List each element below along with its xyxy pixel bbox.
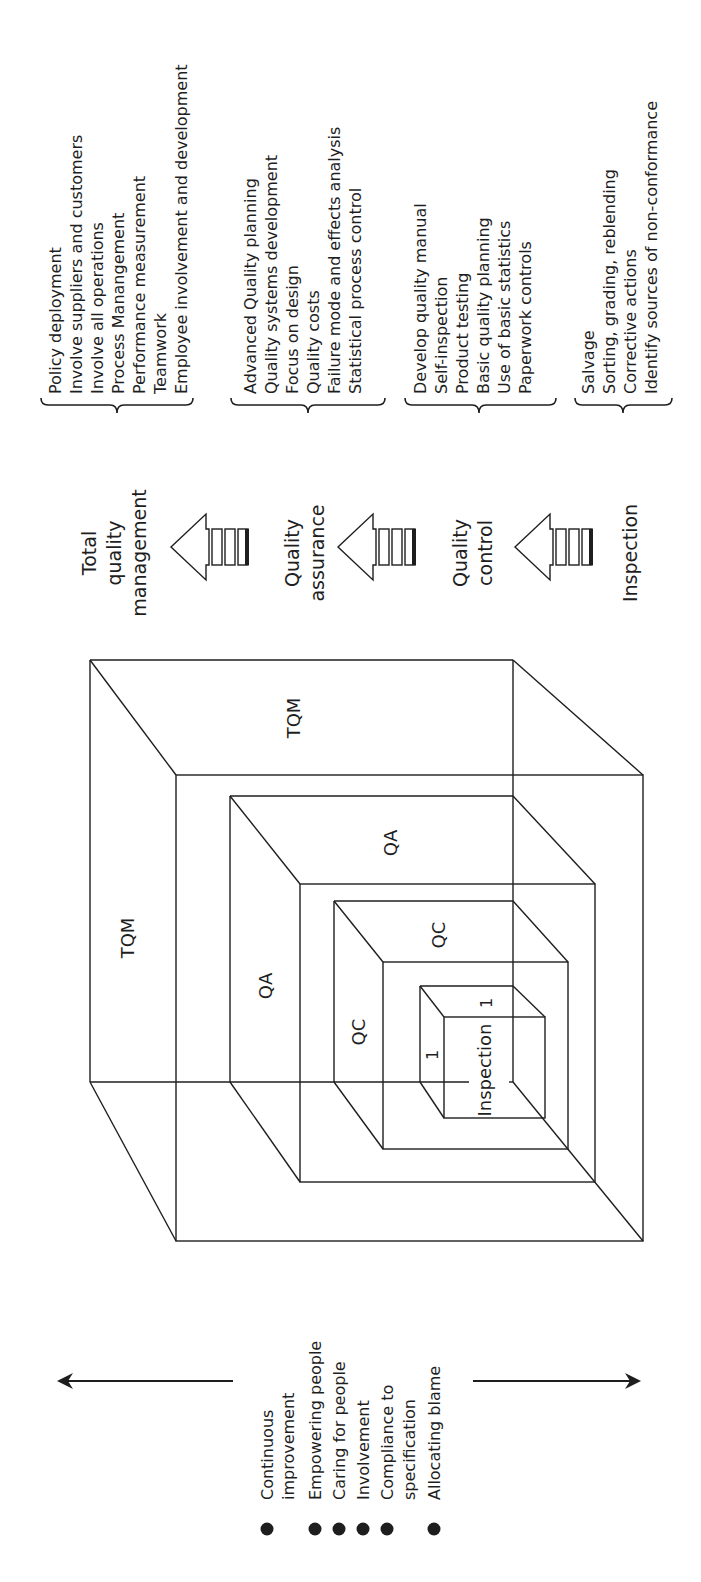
cube-qa (230, 796, 595, 1182)
activity-list-inspection: Salvage Sorting, grading, reblending Cor… (579, 101, 661, 394)
activity-item: Involve suppliers and customers (67, 135, 86, 394)
spectrum-item-cont: improvement (279, 1393, 298, 1500)
spectrum-item: Compliance to (378, 1385, 397, 1500)
activity-list-tqm: Policy deployment Involve suppliers and … (46, 64, 191, 395)
stage-label-line: management (128, 489, 150, 616)
progress-arrow-icon (515, 514, 593, 580)
dimension-label-side: 1 (423, 1050, 442, 1060)
activity-item: Employee involvement and development (172, 64, 191, 394)
activity-item: Self-inspection (432, 277, 451, 394)
bullet-dot-icon (381, 1523, 394, 1536)
spectrum-item-cont: specification (400, 1399, 419, 1500)
stage-label-line: Quality (281, 519, 303, 587)
cube-label-qc-top: QC (428, 922, 449, 949)
cube-tqm (90, 660, 643, 1241)
activity-item: Salvage (579, 330, 598, 394)
stage-label-line: Quality (449, 519, 471, 587)
bullet-dot-icon (333, 1523, 346, 1536)
activity-item: Sorting, grading, reblending (600, 169, 619, 394)
spectrum-item: Continuous (258, 1410, 277, 1500)
bullet-dot-icon (428, 1523, 441, 1536)
activity-item: Policy deployment (46, 247, 65, 394)
stage-label-line: quality (103, 521, 125, 586)
dimension-label-top: 1 (477, 998, 496, 1008)
curly-brace-icon (231, 398, 385, 413)
activity-item: Develop quality manual (411, 203, 430, 394)
activity-list-qa: Advanced Quality planning Quality system… (241, 127, 365, 394)
activity-item: Advanced Quality planning (241, 178, 260, 394)
stage-label-line: Inspection (619, 504, 641, 602)
activity-item: Performance measurement (130, 176, 149, 394)
activity-item: Product testing (453, 273, 472, 394)
stage-label-qc: Quality control (449, 519, 496, 587)
activity-list-qc: Develop quality manual Self-inspection P… (411, 203, 535, 394)
stage-label-line: Total (78, 531, 100, 576)
activity-item: Focus on design (283, 265, 302, 394)
activity-item: Use of basic statistics (495, 221, 514, 394)
progress-arrow-icon (338, 514, 416, 580)
cube-label-inspection: Inspection (474, 1024, 495, 1117)
bullet-dot-icon (357, 1523, 370, 1536)
activity-item: Basic quality planning (474, 217, 493, 394)
spectrum-item: Empowering people (306, 1341, 325, 1500)
progress-arrow-icon (171, 514, 249, 580)
curly-brace-icon (575, 398, 672, 413)
stage-label-qa: Quality assurance (281, 504, 328, 601)
curly-brace-icon (41, 398, 193, 413)
stage-label-tqm: Total quality management (78, 489, 150, 616)
activity-item: Corrective actions (621, 249, 640, 394)
cube-label-tqm-top: TQM (283, 698, 304, 740)
stage-label-line: control (474, 520, 496, 586)
arrow-left-icon (57, 1373, 233, 1389)
stage-label-line: assurance (306, 504, 328, 601)
cube-qc (334, 901, 568, 1149)
activity-item: Statistical process control (346, 188, 365, 394)
cube-label-qc-side: QC (348, 1019, 369, 1046)
cube-label-tqm-side: TQM (117, 918, 138, 960)
curly-brace-icon (405, 398, 556, 413)
activity-item: Identify sources of non-conformance (642, 101, 661, 394)
spectrum-item: Caring for people (330, 1361, 349, 1500)
activity-item: Quality systems development (262, 155, 281, 394)
activity-item: Failure mode and effects analysis (325, 127, 344, 394)
activity-item: Involve all operations (88, 222, 107, 394)
stage-label-inspection: Inspection (619, 504, 641, 602)
culture-spectrum-list: Continuous improvement Empowering people… (258, 1341, 444, 1536)
bullet-dot-icon (309, 1523, 322, 1536)
bullet-dot-icon (261, 1523, 274, 1536)
activity-item: Paperwork controls (516, 241, 535, 394)
spectrum-item: Allocating blame (425, 1366, 444, 1500)
activity-item: Quality costs (304, 290, 323, 394)
activity-item: Process Manangement (109, 213, 128, 394)
activity-item: Teamwork (151, 312, 170, 395)
spectrum-item: Involvement (354, 1400, 373, 1500)
cube-label-qa-side: QA (255, 972, 276, 999)
quality-evolution-diagram: Policy deployment Involve suppliers and … (0, 0, 701, 1582)
arrow-right-icon (473, 1373, 641, 1389)
cube-label-qa-top: QA (380, 829, 401, 856)
